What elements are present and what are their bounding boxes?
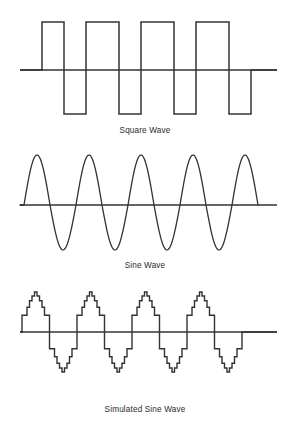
simulated-sine-wave-label: Simulated Sine Wave bbox=[105, 405, 186, 414]
sine-wave-label: Sine Wave bbox=[125, 261, 166, 270]
waveform-canvas: Square Wave Sine Wave Simulated Sine Wav… bbox=[0, 0, 294, 423]
sine-wave-trace bbox=[20, 155, 258, 250]
square-wave-label: Square Wave bbox=[120, 126, 171, 135]
square-wave-trace bbox=[20, 22, 277, 114]
waveform-figure: Square Wave Sine Wave Simulated Sine Wav… bbox=[0, 0, 294, 423]
sine-wave-panel: Sine Wave bbox=[20, 155, 277, 270]
simulated-sine-wave-panel: Simulated Sine Wave bbox=[20, 292, 277, 414]
square-wave-panel: Square Wave bbox=[20, 22, 277, 135]
